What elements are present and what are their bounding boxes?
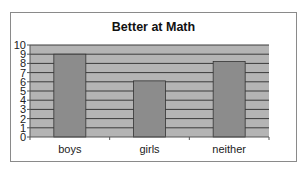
x-category-label: boys	[58, 143, 82, 155]
y-axis: 012345678910	[14, 39, 30, 143]
x-axis: boysgirlsneither	[30, 137, 269, 155]
x-category-label: girls	[139, 143, 160, 155]
x-category-label: neither	[212, 143, 246, 155]
bar-neither	[213, 62, 245, 137]
y-tick-label: 10	[14, 39, 26, 51]
bar-girls	[134, 81, 166, 137]
bar-boys	[54, 54, 86, 137]
bar-chart: 012345678910 boysgirlsneither	[0, 0, 307, 172]
